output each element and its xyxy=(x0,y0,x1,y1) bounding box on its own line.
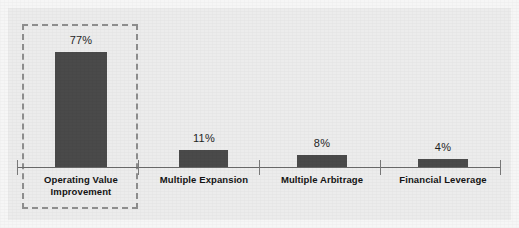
category-label-financial-leverage: Financial Leverage xyxy=(389,174,497,186)
bar-value-label-1: 77% xyxy=(51,34,111,46)
category-label-multiple-arbitrage: Multiple Arbitrage xyxy=(268,174,376,186)
bar-value-label-2: 11% xyxy=(174,132,234,144)
category-label-line2: Improvement xyxy=(51,186,112,197)
bar-chart-figure: 77% Operating Value Improvement 11% Mult… xyxy=(0,0,519,228)
axis-tick-end xyxy=(500,160,501,175)
category-label-line1: Financial Leverage xyxy=(399,174,486,185)
category-label-line1: Multiple Expansion xyxy=(160,174,248,185)
bar-multiple-expansion xyxy=(179,150,228,167)
bar-operating-value-improvement xyxy=(55,52,107,167)
axis-tick-start xyxy=(17,160,18,175)
bar-value-label-3: 8% xyxy=(292,137,352,149)
category-label-line1: Operating Value xyxy=(44,174,118,185)
bar-multiple-arbitrage xyxy=(297,155,347,167)
axis-tick-3 xyxy=(380,160,381,175)
axis-tick-2 xyxy=(259,160,260,175)
bar-value-label-4: 4% xyxy=(413,141,473,153)
category-label-multiple-expansion: Multiple Expansion xyxy=(148,174,260,186)
bar-financial-leverage xyxy=(418,159,468,167)
axis-tick-1 xyxy=(138,160,139,175)
category-label-line1: Multiple Arbitrage xyxy=(281,174,363,185)
category-label-operating-value-improvement: Operating Value Improvement xyxy=(28,174,134,197)
